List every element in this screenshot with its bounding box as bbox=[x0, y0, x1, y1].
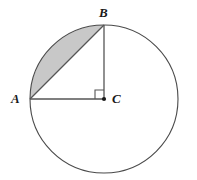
vertex-label-c: C bbox=[112, 92, 121, 105]
vertex-label-b: B bbox=[99, 6, 108, 19]
vertex-label-a: A bbox=[11, 92, 20, 105]
geometry-figure: A B C bbox=[0, 0, 197, 180]
center-point-dot bbox=[102, 97, 106, 101]
geometry-canvas bbox=[0, 0, 197, 180]
